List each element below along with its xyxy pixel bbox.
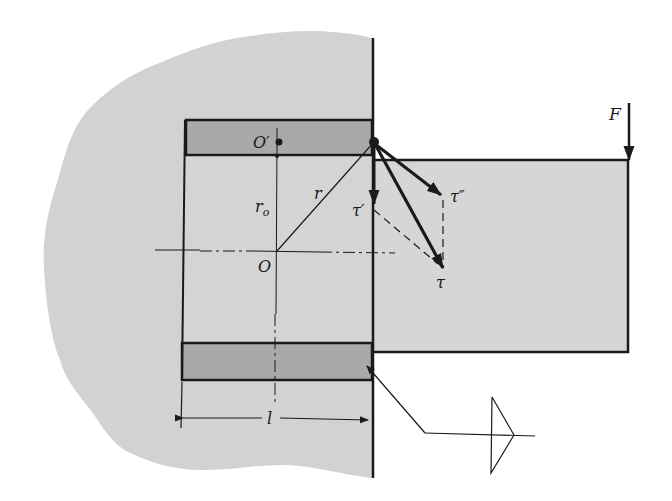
radius-label: r (314, 184, 323, 203)
bottom-weld (182, 343, 372, 380)
bracket-plate (372, 160, 628, 352)
top-weld (186, 120, 372, 155)
tau-secondary-label: τ″ (450, 187, 465, 206)
tau-resultant-label: τ (436, 273, 446, 292)
weld-centroid-tick (275, 154, 279, 158)
weld-centroid-label: O′ (253, 133, 270, 152)
force-label: F (608, 104, 622, 124)
weld-diagram: F O′ O r ro τ′ τ″ τ l (0, 0, 672, 501)
weld-symbol (367, 366, 535, 473)
weld-centroid-point (276, 139, 283, 146)
length-label: l (267, 409, 272, 428)
tau-primary-label: τ′ (352, 201, 365, 220)
offset-radius-subscript: o (263, 206, 270, 219)
centroid-label: O (258, 257, 271, 276)
